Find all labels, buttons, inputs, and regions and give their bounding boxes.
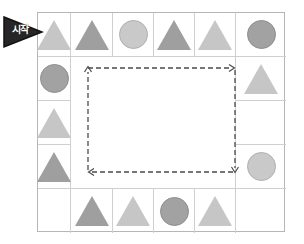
triangle-token	[198, 196, 232, 226]
triangle-token	[37, 108, 71, 138]
triangle-token	[37, 152, 71, 182]
board-cell-r4-c6[interactable]	[236, 145, 286, 189]
circle-token	[247, 152, 276, 181]
board-cell-r3-c3[interactable]	[113, 101, 154, 145]
board-cell-r5-c5[interactable]	[195, 189, 236, 233]
board-cell-r2-c2[interactable]	[71, 57, 113, 101]
board-cell-r4-c4[interactable]	[154, 145, 195, 189]
triangle-token	[75, 196, 109, 226]
board-cell-r1-c3[interactable]	[113, 13, 154, 57]
circle-token	[119, 20, 148, 49]
board-cell-r4-c1[interactable]	[38, 145, 71, 189]
board-cell-r1-c4[interactable]	[154, 13, 195, 57]
board-grid	[37, 12, 285, 232]
board-cell-r1-c5[interactable]	[195, 13, 236, 57]
board-cell-r2-c1[interactable]	[38, 57, 71, 101]
board-cell-r2-c3[interactable]	[113, 57, 154, 101]
board-cell-r5-c6[interactable]	[236, 189, 286, 233]
board-cell-r1-c2[interactable]	[71, 13, 113, 57]
triangle-token	[157, 20, 191, 50]
board-cell-r5-c2[interactable]	[71, 189, 113, 233]
start-label: 시작	[6, 24, 34, 35]
board-cell-r2-c6[interactable]	[236, 57, 286, 101]
board-cell-r4-c2[interactable]	[71, 145, 113, 189]
board-cell-r4-c5[interactable]	[195, 145, 236, 189]
circle-token	[160, 197, 189, 226]
board-cell-r2-c4[interactable]	[154, 57, 195, 101]
triangle-token	[198, 20, 232, 50]
board-cell-r3-c6[interactable]	[236, 101, 286, 145]
triangle-token	[75, 20, 109, 50]
board-game-figure: 시작	[0, 0, 304, 244]
board-cell-r3-c1[interactable]	[38, 101, 71, 145]
board-cell-r5-c4[interactable]	[154, 189, 195, 233]
circle-token	[247, 20, 276, 49]
board-cell-r1-c6[interactable]	[236, 13, 286, 57]
board-cell-r2-c5[interactable]	[195, 57, 236, 101]
board-cell-r5-c1[interactable]	[38, 189, 71, 233]
start-marker: 시작	[2, 15, 44, 49]
board-cell-r5-c3[interactable]	[113, 189, 154, 233]
board-cell-r3-c2[interactable]	[71, 101, 113, 145]
board-cell-r4-c3[interactable]	[113, 145, 154, 189]
triangle-token	[244, 64, 278, 94]
board-cell-r3-c4[interactable]	[154, 101, 195, 145]
triangle-token	[116, 196, 150, 226]
board-cell-r3-c5[interactable]	[195, 101, 236, 145]
circle-token	[40, 64, 69, 93]
